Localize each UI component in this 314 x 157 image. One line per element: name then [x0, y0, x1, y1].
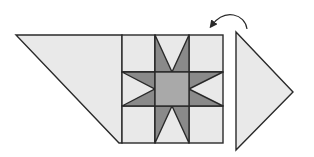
grid-square [122, 106, 155, 143]
grid-square [189, 106, 223, 143]
rotate-arrow-icon [212, 15, 247, 29]
grid-square [122, 35, 155, 72]
right-setting-triangle [236, 32, 293, 150]
quilt-diagram-svg [0, 0, 314, 157]
center-square [155, 72, 189, 106]
left-setting-trapezoid [16, 35, 122, 143]
quilt-diagram [0, 0, 314, 157]
grid-square [189, 35, 223, 72]
